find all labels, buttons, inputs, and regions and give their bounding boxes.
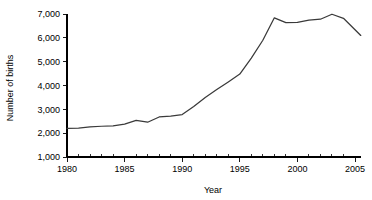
x-tick-label: 2000 (287, 164, 307, 174)
x-tick-label: 2005 (345, 164, 365, 174)
y-axis-ticks (63, 14, 67, 157)
x-axis-group: 198019851990199520002005 Year (57, 154, 365, 195)
x-tick-label: 1995 (230, 164, 250, 174)
x-tick-label: 1985 (115, 164, 135, 174)
data-series-line (67, 14, 361, 128)
y-tick-label: 4,000 (37, 81, 60, 91)
plot-area (67, 14, 361, 128)
y-tick-label: 2,000 (37, 128, 60, 138)
x-tick-label: 1980 (57, 164, 77, 174)
y-tick-label: 1,000 (37, 152, 60, 162)
x-tick-label: 1990 (172, 164, 192, 174)
y-axis-group: 1,0002,0003,0004,0005,0006,0007,000 Numb… (5, 9, 67, 162)
x-axis-tick-labels: 198019851990199520002005 (57, 164, 365, 174)
y-tick-label: 5,000 (37, 57, 60, 67)
births-line-chart: 1,0002,0003,0004,0005,0006,0007,000 Numb… (0, 0, 372, 200)
x-axis-ticks (67, 157, 355, 162)
y-tick-label: 7,000 (37, 9, 60, 19)
y-tick-label: 6,000 (37, 33, 60, 43)
y-axis-tick-labels: 1,0002,0003,0004,0005,0006,0007,000 (37, 9, 60, 162)
y-axis-title: Number of births (5, 54, 15, 121)
y-tick-label: 3,000 (37, 105, 60, 115)
x-axis-title: Year (204, 185, 222, 195)
chart-container: 1,0002,0003,0004,0005,0006,0007,000 Numb… (0, 0, 372, 200)
